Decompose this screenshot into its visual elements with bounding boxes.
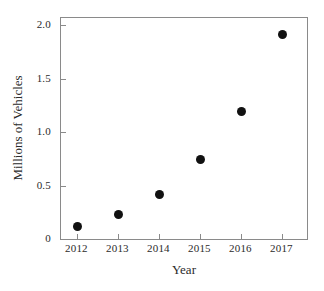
y-axis-tick <box>61 186 66 187</box>
data-point <box>73 222 82 231</box>
x-axis-tick <box>241 234 242 239</box>
y-axis-tick <box>61 25 66 26</box>
data-point <box>114 210 123 219</box>
x-axis-tick-label: 2013 <box>106 242 129 254</box>
y-axis-title: Millions of Vehicles <box>10 28 26 228</box>
y-axis-tick <box>61 239 66 240</box>
x-axis-tick-label: 2016 <box>229 242 252 254</box>
x-axis-tick-labels: 201220132014201520162017 <box>60 242 308 258</box>
x-axis-title: Year <box>60 262 308 278</box>
data-point <box>278 30 287 39</box>
x-axis-tick <box>200 234 201 239</box>
y-axis-tick <box>61 79 66 80</box>
scatter-chart-figure: 00.51.01.52.0 201220132014201520162017 Y… <box>0 0 324 291</box>
x-axis-tick <box>118 234 119 239</box>
plot-frame <box>60 17 308 240</box>
y-axis-tick-label: 1.0 <box>37 125 51 137</box>
y-axis-tick-label: 0.5 <box>37 179 51 191</box>
plot-area <box>61 18 307 239</box>
data-point <box>237 107 246 116</box>
y-axis-tick <box>61 132 66 133</box>
data-point <box>155 190 164 199</box>
y-axis-tick-label: 0 <box>45 232 51 244</box>
x-axis-tick-label: 2015 <box>188 242 211 254</box>
x-axis-tick <box>159 234 160 239</box>
x-axis-tick-label: 2012 <box>65 242 88 254</box>
y-axis-tick-labels: 00.51.01.52.0 <box>0 17 56 240</box>
y-axis-tick-label: 2.0 <box>37 18 51 30</box>
x-axis-tick-label: 2017 <box>270 242 293 254</box>
x-axis-tick <box>77 234 78 239</box>
x-axis-tick-label: 2014 <box>147 242 170 254</box>
y-axis-tick-label: 1.5 <box>37 72 51 84</box>
x-axis-tick <box>282 234 283 239</box>
data-point <box>196 155 205 164</box>
